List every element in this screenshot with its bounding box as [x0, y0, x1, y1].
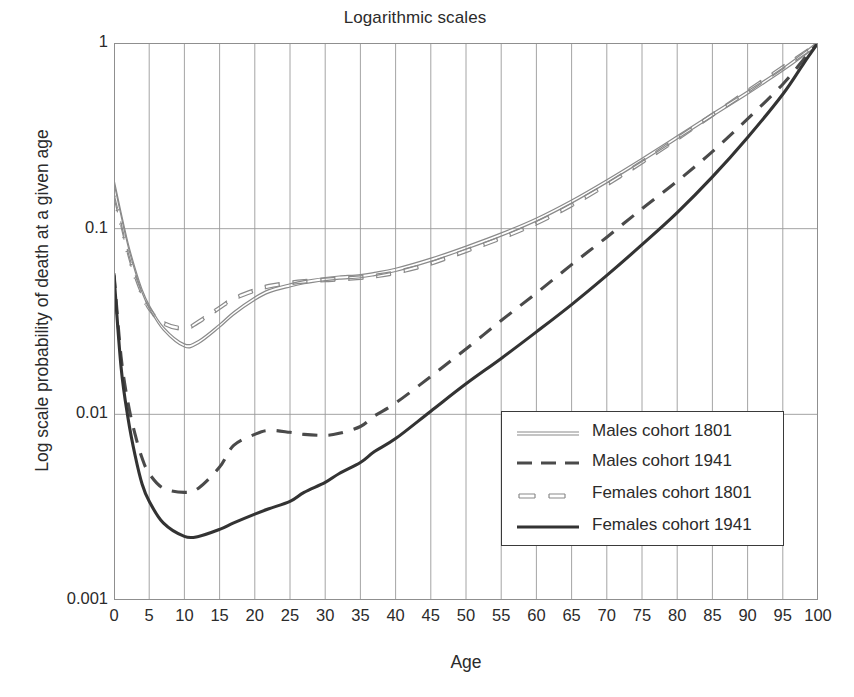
chart-title-text: Logarithmic scales — [344, 8, 487, 28]
chart-figure: Logarithmic scales Log scale probability… — [0, 0, 854, 697]
x-tick-label: 30 — [305, 606, 345, 625]
x-tick-label: 0 — [94, 606, 134, 625]
x-tick-label: 50 — [446, 606, 486, 625]
x-tick-label: 70 — [587, 606, 627, 625]
x-tick-label: 95 — [763, 606, 803, 625]
legend-box: Males cohort 1801 Males cohort 1941 Fema… — [501, 411, 784, 546]
x-tick-label: 45 — [411, 606, 451, 625]
x-tick-label: 90 — [728, 606, 768, 625]
legend-label: Females cohort 1801 — [592, 483, 752, 503]
legend-swatch-females-1941 — [515, 512, 581, 542]
legend-swatch-males-1941 — [515, 448, 581, 478]
x-tick-label: 10 — [164, 606, 204, 625]
x-tick-label: 80 — [657, 606, 697, 625]
legend-item-females-1801: Females cohort 1801 — [502, 480, 785, 510]
x-tick-label: 25 — [270, 606, 310, 625]
legend-item-males-1941: Males cohort 1941 — [502, 448, 785, 478]
x-tick-label: 85 — [692, 606, 732, 625]
legend-label: Males cohort 1941 — [592, 451, 732, 471]
y-tick-label: 0.1 — [85, 218, 108, 237]
x-tick-label: 20 — [235, 606, 275, 625]
legend-swatch-males-1801 — [515, 418, 581, 448]
x-axis-title: Age — [114, 652, 818, 673]
y-axis-tick-labels: 10.10.010.001 — [0, 0, 108, 697]
chart-title: Logarithmic scales — [0, 8, 854, 28]
x-tick-label: 40 — [376, 606, 416, 625]
legend-label: Males cohort 1801 — [592, 421, 732, 441]
x-tick-label: 35 — [340, 606, 380, 625]
y-tick-label: 0.01 — [76, 403, 108, 422]
x-tick-label: 15 — [200, 606, 240, 625]
legend-item-females-1941: Females cohort 1941 — [502, 512, 785, 542]
legend-item-males-1801: Males cohort 1801 — [502, 418, 785, 448]
legend-swatch-females-1801 — [515, 480, 581, 510]
y-tick-label: 1 — [99, 32, 108, 51]
x-tick-label: 100 — [798, 606, 838, 625]
x-tick-label: 75 — [622, 606, 662, 625]
x-tick-label: 60 — [516, 606, 556, 625]
x-tick-label: 55 — [481, 606, 521, 625]
legend-label: Females cohort 1941 — [592, 515, 752, 535]
x-axis-tick-labels: 0510152025303540455055606570758085909510… — [114, 606, 818, 634]
x-tick-label: 5 — [129, 606, 169, 625]
x-tick-label: 65 — [552, 606, 592, 625]
